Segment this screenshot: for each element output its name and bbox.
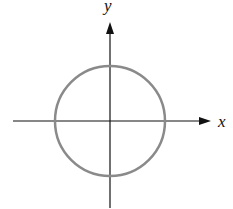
x-axis-arrow-icon — [199, 117, 211, 125]
x-axis — [13, 117, 211, 125]
x-axis-label: x — [217, 112, 226, 131]
y-axis-label: y — [102, 0, 112, 15]
y-axis — [106, 22, 114, 208]
coordinate-diagram: x y — [0, 0, 233, 209]
y-axis-arrow-icon — [106, 22, 114, 34]
